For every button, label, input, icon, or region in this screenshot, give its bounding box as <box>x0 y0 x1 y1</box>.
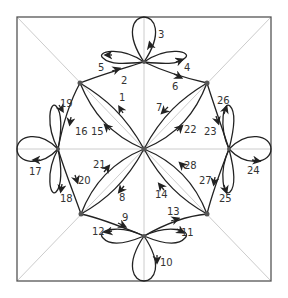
edge-label: 7 <box>156 102 162 113</box>
edge-label: 12 <box>92 226 105 237</box>
edge-label: 21 <box>93 159 106 170</box>
graph-diagram: 1 2 3 4 5 6 7 8 9 10 11 12 13 14 15 16 1… <box>0 0 288 298</box>
vertex-bottom <box>142 234 146 238</box>
edge-label: 13 <box>167 206 180 217</box>
edge-label: 2 <box>121 75 127 86</box>
edge-label: 22 <box>184 124 197 135</box>
edge-label: 18 <box>60 193 73 204</box>
edge-label: 10 <box>160 257 173 268</box>
vertex-bottom-right <box>205 212 210 217</box>
edge-label: 27 <box>199 175 212 186</box>
edge-label: 6 <box>172 81 178 92</box>
edge-label: 1 <box>119 92 125 103</box>
edge-label: 4 <box>184 62 190 73</box>
edge-label: 26 <box>217 95 230 106</box>
vertex-top-left <box>78 81 83 86</box>
edge-label: 17 <box>29 166 42 177</box>
edge-label: 14 <box>155 189 168 200</box>
vertex-right <box>227 147 231 151</box>
edge-label: 28 <box>184 160 197 171</box>
vertex-top-right <box>205 81 210 86</box>
edge-label: 20 <box>78 175 91 186</box>
edge-label: 9 <box>122 212 128 223</box>
edge-label: 11 <box>181 227 194 238</box>
edge-label: 15 <box>91 126 104 137</box>
edge-label: 16 <box>75 126 88 137</box>
edge-label: 5 <box>98 62 104 73</box>
edge-label: 25 <box>219 193 232 204</box>
vertex-top <box>142 60 146 64</box>
vertex-left <box>56 147 60 151</box>
vertex-center <box>142 147 147 152</box>
edge-label: 3 <box>158 29 164 40</box>
edge-label: 24 <box>247 165 260 176</box>
edge-label: 8 <box>119 192 125 203</box>
vertex-bottom-left <box>79 212 84 217</box>
edge-label: 19 <box>60 98 73 109</box>
edge-label: 23 <box>204 126 217 137</box>
